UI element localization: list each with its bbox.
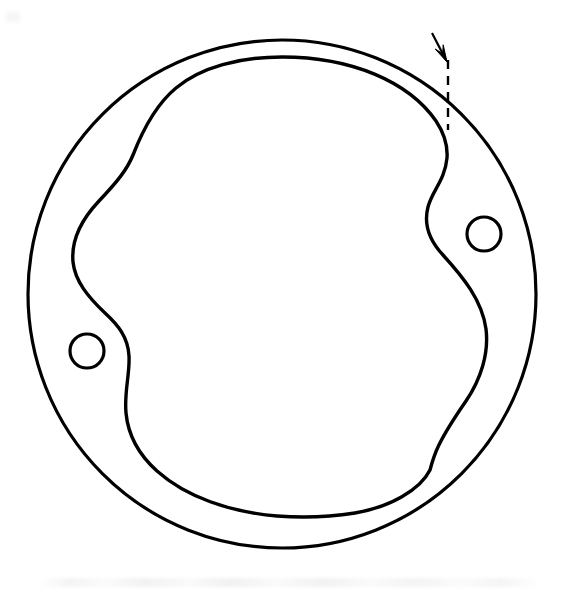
figure-canvas xyxy=(0,0,579,599)
drawing-background xyxy=(0,0,579,599)
technical-drawing xyxy=(0,0,579,599)
